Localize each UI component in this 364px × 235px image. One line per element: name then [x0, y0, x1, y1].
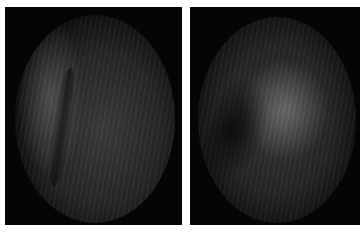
- endoscopic-field-left: [15, 15, 175, 223]
- image-panel-right: [190, 7, 360, 225]
- image-panel-left: [5, 7, 182, 225]
- scan-texture: [15, 15, 175, 223]
